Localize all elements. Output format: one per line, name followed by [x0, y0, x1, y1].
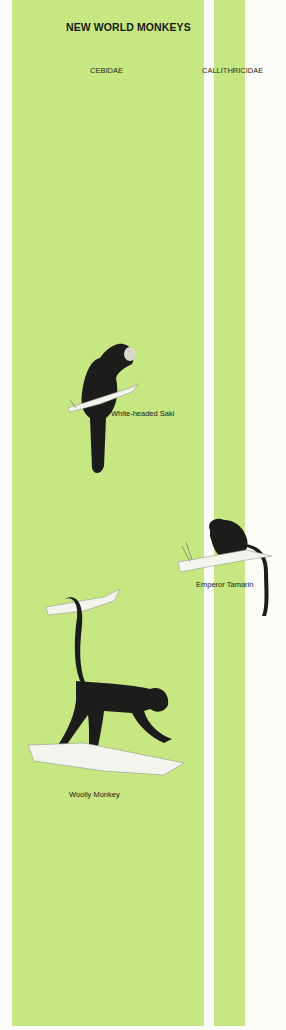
cebidae-column-band [12, 0, 204, 1026]
caption-white-headed-saki: White-headed Saki [111, 409, 174, 418]
caption-woolly-monkey: Woolly Monkey [69, 790, 120, 799]
page-title: NEW WORLD MONKEYS [66, 21, 200, 33]
family-heading-cebidae: CEBIDAE [90, 66, 123, 75]
family-heading-callithricidae: CALLITHRICIDAE [202, 66, 263, 75]
caption-emperor-tamarin: Emperor Tamarin [196, 580, 253, 589]
white-headed-saki-illustration-icon [60, 338, 150, 478]
callithricidae-column-band [214, 0, 245, 1026]
woolly-monkey-illustration-icon [24, 585, 192, 800]
